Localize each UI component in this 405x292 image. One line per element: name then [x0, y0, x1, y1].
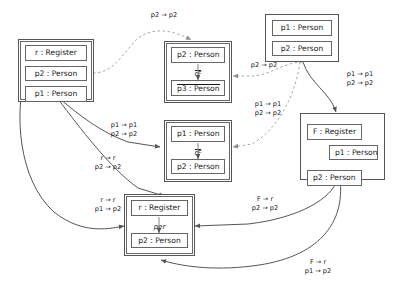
diagram-canvas: r : Register p2 : Person p1 : Person p2 …: [0, 0, 405, 292]
inner-connector-layer: [0, 0, 405, 292]
